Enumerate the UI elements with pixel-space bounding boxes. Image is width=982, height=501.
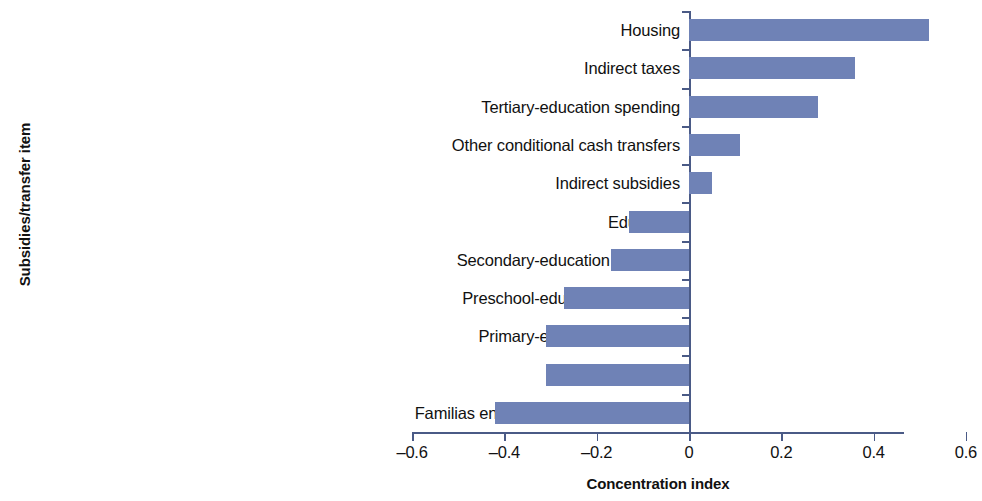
y-axis-tick [682, 11, 690, 13]
x-axis-tick-label: –0.2 [567, 443, 627, 462]
bar [689, 57, 855, 79]
x-axis-tick-label: 0.6 [936, 443, 982, 462]
bar [564, 287, 689, 309]
bar [546, 364, 689, 386]
x-axis-tick-label: –0.4 [474, 443, 534, 462]
bar [611, 249, 689, 271]
y-axis-tick [682, 317, 690, 319]
x-axis-tick [504, 432, 506, 441]
y-axis-tick [682, 241, 690, 243]
x-axis-tick [689, 432, 691, 441]
x-axis-tick [874, 432, 876, 441]
y-axis-tick [682, 279, 690, 281]
x-axis-tick-label: 0.4 [844, 443, 904, 462]
y-axis-tick [682, 355, 690, 357]
bar [629, 211, 689, 233]
y-axis-tick [682, 202, 690, 204]
bar [689, 96, 818, 118]
bar [689, 134, 740, 156]
y-axis-tick [682, 49, 690, 51]
x-axis-tick [597, 432, 599, 441]
x-axis-tick-label: 0 [659, 443, 719, 462]
x-axis-line [412, 432, 904, 434]
x-axis-tick-label: 0.2 [751, 443, 811, 462]
bar [495, 402, 689, 424]
x-axis-tick [412, 432, 414, 441]
y-axis-tick [682, 88, 690, 90]
bar [546, 325, 689, 347]
y-axis-tick [682, 126, 690, 128]
bar [689, 19, 929, 41]
x-axis-tick [781, 432, 783, 441]
plot-area [412, 11, 904, 432]
x-axis-tick-label: –0.6 [382, 443, 442, 462]
x-axis-tick [966, 432, 968, 441]
bar [689, 172, 712, 194]
x-axis-title: Concentration index [412, 475, 904, 492]
y-axis-tick [682, 164, 690, 166]
y-axis-tick [682, 394, 690, 396]
